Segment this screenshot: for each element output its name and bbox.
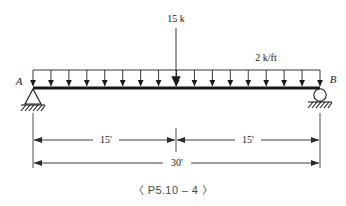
- point-load-label: 15 k: [167, 13, 185, 24]
- distributed-load-group: 2 k/ft: [33, 52, 320, 86]
- distributed-load-arrows: [33, 70, 320, 86]
- dimension-label-right-span: 15': [242, 134, 254, 145]
- dimension-label-left-span: 15': [100, 134, 112, 145]
- pin-support-hatching: [21, 105, 45, 111]
- right-support-label: B: [330, 73, 337, 85]
- beam-diagram-canvas: 15 k 2 k/ft A: [0, 0, 346, 206]
- point-load-group: 15 k: [167, 13, 185, 86]
- dimension-row-lower: 30': [34, 155, 319, 169]
- figure-caption: 〈 P5.10 – 4 〉: [133, 184, 213, 196]
- dimension-label-total-span: 30': [171, 157, 183, 168]
- right-support-roller: B: [308, 73, 337, 108]
- pin-support-triangle: [25, 89, 41, 104]
- dimension-row-upper: 15' 15': [34, 132, 319, 146]
- left-support-pin: A: [15, 75, 45, 111]
- beam-loading-figure: 15 k 2 k/ft A: [0, 0, 346, 206]
- distributed-load-label: 2 k/ft: [255, 52, 277, 63]
- roller-support-hatching: [308, 102, 332, 108]
- roller-support-circle: [314, 89, 326, 101]
- left-support-label: A: [15, 75, 23, 87]
